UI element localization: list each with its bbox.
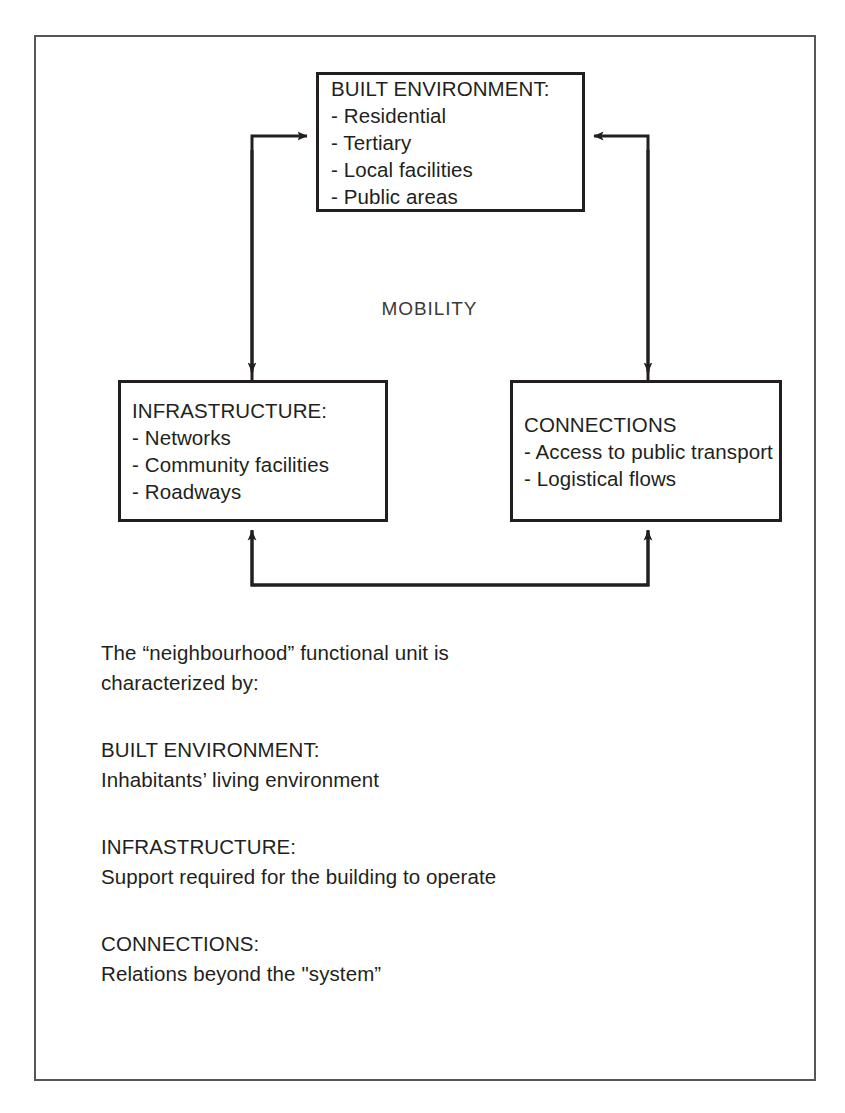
node-built-environment[interactable]: BUILT ENVIRONMENT: - Residential - Terti… — [316, 72, 585, 212]
list-item: - Logistical flows — [524, 465, 765, 492]
mobility-label: MOBILITY — [0, 298, 845, 320]
node-infrastructure[interactable]: INFRASTRUCTURE: - Networks - Community f… — [118, 380, 388, 522]
node-built-environment-content: BUILT ENVIRONMENT: - Residential - Terti… — [319, 75, 582, 210]
caption-section-built-environment: BUILT ENVIRONMENT: Inhabitants’ living e… — [101, 735, 741, 795]
node-built-environment-title: BUILT ENVIRONMENT: — [331, 75, 568, 102]
node-infrastructure-list: - Networks - Community facilities - Road… — [132, 424, 371, 505]
caption-section-body: Relations beyond the "system” — [101, 959, 741, 989]
caption-section-heading: INFRASTRUCTURE: — [101, 832, 741, 862]
caption-block: The “neighbourhood” functional unit is c… — [101, 638, 741, 989]
list-item: - Public areas — [331, 183, 568, 210]
caption-section-body: Inhabitants’ living environment — [101, 765, 741, 795]
node-built-environment-list: - Residential - Tertiary - Local facilit… — [331, 102, 568, 210]
list-item: - Community facilities — [132, 451, 371, 478]
spacer — [101, 892, 741, 929]
spacer — [101, 698, 741, 735]
caption-section-body: Support required for the building to ope… — [101, 862, 741, 892]
list-item: - Tertiary — [331, 129, 568, 156]
diagram-page: BUILT ENVIRONMENT: - Residential - Terti… — [0, 0, 845, 1113]
spacer — [101, 795, 741, 832]
node-connections-title: CONNECTIONS — [524, 411, 765, 438]
node-infrastructure-content: INFRASTRUCTURE: - Networks - Community f… — [121, 397, 385, 505]
caption-section-connections: CONNECTIONS: Relations beyond the "syste… — [101, 929, 741, 989]
caption-section-infrastructure: INFRASTRUCTURE: Support required for the… — [101, 832, 741, 892]
node-connections-list: - Access to public transport - Logistica… — [524, 438, 765, 492]
node-infrastructure-title: INFRASTRUCTURE: — [132, 397, 371, 424]
caption-intro-line-2: characterized by: — [101, 668, 741, 698]
caption-intro: The “neighbourhood” functional unit is c… — [101, 638, 741, 698]
list-item: - Networks — [132, 424, 371, 451]
node-connections-content: CONNECTIONS - Access to public transport… — [513, 411, 779, 492]
caption-section-heading: CONNECTIONS: — [101, 929, 741, 959]
caption-section-heading: BUILT ENVIRONMENT: — [101, 735, 741, 765]
list-item: - Access to public transport — [524, 438, 765, 465]
node-connections[interactable]: CONNECTIONS - Access to public transport… — [510, 380, 782, 522]
list-item: - Local facilities — [331, 156, 568, 183]
list-item: - Roadways — [132, 478, 371, 505]
caption-intro-line-1: The “neighbourhood” functional unit is — [101, 638, 741, 668]
list-item: - Residential — [331, 102, 568, 129]
mobility-label-text: MOBILITY — [382, 298, 478, 319]
